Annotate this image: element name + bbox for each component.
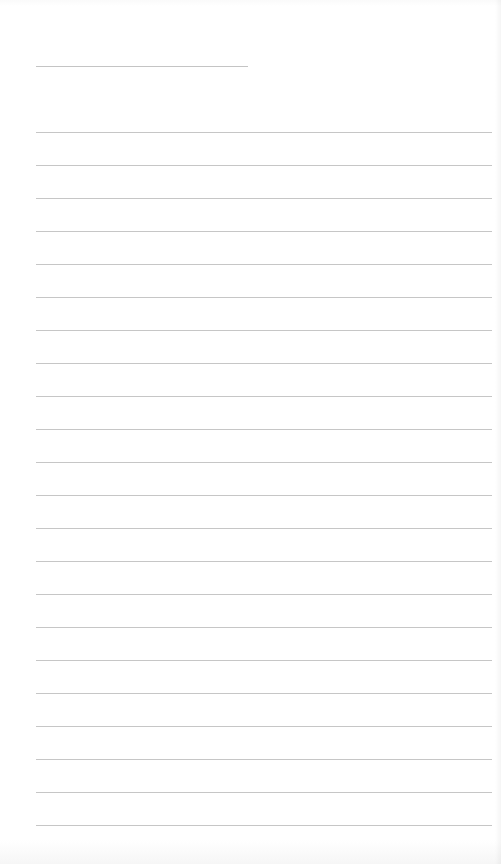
ruled-line — [36, 462, 492, 463]
ruled-line — [36, 627, 492, 628]
ruled-line — [36, 264, 492, 265]
ruled-line — [36, 363, 492, 364]
ruled-line — [36, 726, 492, 727]
title-line — [36, 66, 248, 67]
ruled-line — [36, 825, 492, 826]
ruled-line — [36, 693, 492, 694]
page-edge-shadow — [495, 0, 501, 864]
ruled-line — [36, 396, 492, 397]
ruled-line — [36, 297, 492, 298]
ruled-line — [36, 792, 492, 793]
ruled-line — [36, 132, 492, 133]
notepad-page — [0, 0, 501, 864]
ruled-line — [36, 495, 492, 496]
ruled-line — [36, 660, 492, 661]
ruled-line — [36, 594, 492, 595]
ruled-line — [36, 429, 492, 430]
ruled-line — [36, 759, 492, 760]
ruled-line — [36, 231, 492, 232]
ruled-line — [36, 198, 492, 199]
ruled-line — [36, 528, 492, 529]
ruled-line — [36, 330, 492, 331]
ruled-line — [36, 165, 492, 166]
ruled-line — [36, 561, 492, 562]
